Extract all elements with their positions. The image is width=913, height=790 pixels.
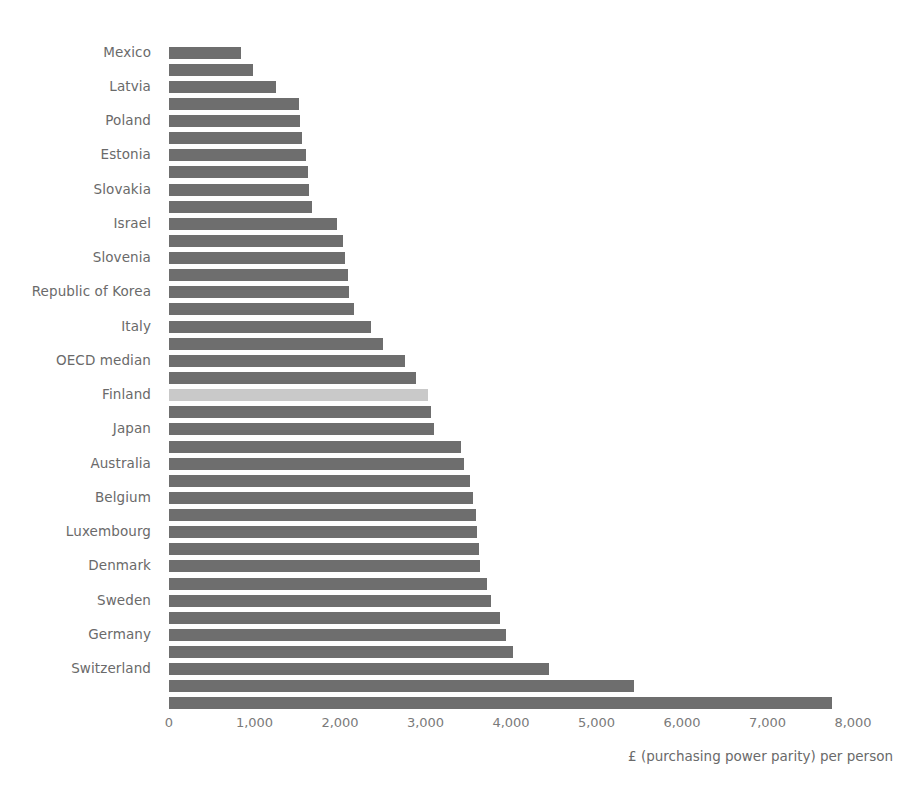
x-tick-label: 0	[165, 716, 173, 729]
bar	[169, 235, 343, 247]
x-tick-label: 3,000	[407, 716, 444, 729]
category-axis-labels: MexicoLatviaPolandEstoniaSlovakiaIsraelS…	[0, 44, 160, 712]
bar-row	[169, 149, 853, 161]
bar-row	[169, 680, 853, 692]
x-tick-label: 4,000	[492, 716, 529, 729]
category-label: Japan	[113, 422, 151, 436]
bar	[169, 697, 832, 709]
category-label: Belgium	[95, 491, 151, 505]
bar-row	[169, 663, 853, 675]
bar-row	[169, 235, 853, 247]
bar	[169, 252, 345, 264]
category-label: Republic of Korea	[32, 285, 151, 299]
category-label: Poland	[105, 114, 151, 128]
bar-row	[169, 578, 853, 590]
category-label: Australia	[90, 457, 151, 471]
category-label: Sweden	[97, 594, 151, 608]
category-label: Mexico	[103, 46, 151, 60]
bar	[169, 526, 477, 538]
bar	[169, 372, 416, 384]
bar	[169, 338, 383, 350]
category-label: Israel	[114, 217, 152, 231]
bar-row	[169, 252, 853, 264]
bar	[169, 81, 276, 93]
category-label: Latvia	[109, 80, 151, 94]
bar-row	[169, 441, 853, 453]
bar-row	[169, 115, 853, 127]
bar-row	[169, 338, 853, 350]
bar-chart: MexicoLatviaPolandEstoniaSlovakiaIsraelS…	[0, 0, 913, 790]
bar	[169, 406, 431, 418]
bar-row	[169, 269, 853, 281]
category-label: Italy	[121, 320, 151, 334]
bar	[169, 543, 479, 555]
bar-row	[169, 406, 853, 418]
bar	[169, 269, 348, 281]
bar-row	[169, 697, 853, 709]
bar-row	[169, 184, 853, 196]
bar	[169, 646, 513, 658]
bar-row	[169, 612, 853, 624]
category-label: Slovenia	[93, 251, 151, 265]
bar	[169, 509, 476, 521]
bar-row	[169, 218, 853, 230]
bar-row	[169, 458, 853, 470]
bar	[169, 355, 405, 367]
bar-row	[169, 81, 853, 93]
bar	[169, 149, 306, 161]
bar	[169, 595, 491, 607]
bar-row	[169, 201, 853, 213]
x-tick-label: 2,000	[321, 716, 358, 729]
bar-highlight-oecd-median	[169, 389, 428, 401]
bar	[169, 303, 354, 315]
category-label: Luxembourg	[66, 525, 151, 539]
bar	[169, 663, 549, 675]
bar-row	[169, 303, 853, 315]
bar-row	[169, 560, 853, 572]
bar	[169, 578, 487, 590]
bar	[169, 475, 470, 487]
category-label: Germany	[88, 628, 151, 642]
x-axis-title: £ (purchasing power parity) per person	[0, 748, 893, 764]
bar-row	[169, 321, 853, 333]
bar-row	[169, 475, 853, 487]
bar	[169, 321, 371, 333]
x-tick-label: 1,000	[236, 716, 273, 729]
bar	[169, 201, 312, 213]
bar-row	[169, 492, 853, 504]
bar-row	[169, 47, 853, 59]
bar-row	[169, 132, 853, 144]
plot-area	[169, 44, 853, 712]
category-label: Slovakia	[94, 183, 151, 197]
bar	[169, 612, 500, 624]
bar	[169, 629, 506, 641]
bar-row	[169, 389, 853, 401]
bar	[169, 218, 337, 230]
x-tick-label: 5,000	[578, 716, 615, 729]
bar-row	[169, 646, 853, 658]
bar	[169, 184, 309, 196]
bar-row	[169, 98, 853, 110]
category-label: Estonia	[101, 148, 151, 162]
bar	[169, 492, 473, 504]
category-label: OECD median	[56, 354, 151, 368]
bar	[169, 458, 464, 470]
bar	[169, 560, 480, 572]
bar	[169, 115, 300, 127]
bar-row	[169, 543, 853, 555]
bar	[169, 64, 253, 76]
x-tick-label: 7,000	[749, 716, 786, 729]
bar	[169, 441, 461, 453]
category-label: Finland	[102, 388, 151, 402]
bar-row	[169, 372, 853, 384]
bar	[169, 680, 634, 692]
bar-row	[169, 629, 853, 641]
bar	[169, 132, 302, 144]
bar-row	[169, 595, 853, 607]
category-label: Denmark	[88, 559, 151, 573]
bar-row	[169, 286, 853, 298]
bar	[169, 423, 434, 435]
bar-row	[169, 166, 853, 178]
bar	[169, 286, 349, 298]
bar	[169, 47, 241, 59]
